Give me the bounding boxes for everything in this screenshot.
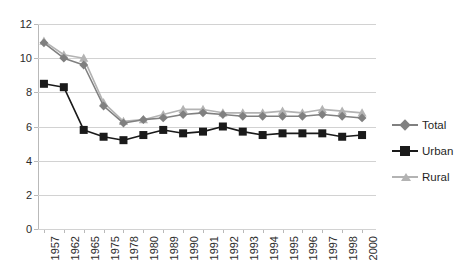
gridline	[38, 229, 376, 230]
series-total	[40, 38, 367, 127]
x-tick-label: 1978	[128, 236, 140, 260]
x-tick-label: 1991	[208, 236, 220, 260]
chart-legend: Total Urban Rural	[392, 112, 468, 190]
x-tick-label: 1957	[49, 236, 61, 260]
x-tick-label: 1998	[347, 236, 359, 260]
data-point-marker	[358, 131, 366, 139]
data-point-marker	[119, 136, 127, 144]
legend-label-urban: Urban	[422, 145, 453, 157]
x-tick-label: 1992	[228, 236, 240, 260]
line-chart: 024681012 195719621965197519781980198919…	[0, 0, 468, 280]
legend-label-total: Total	[422, 119, 446, 131]
triangle-icon	[401, 173, 411, 181]
y-tick-label: 2	[26, 189, 32, 201]
y-axis-labels: 024681012	[0, 24, 32, 229]
data-point-marker	[239, 128, 247, 136]
data-point-marker	[279, 129, 287, 137]
legend-marker-total-icon	[392, 118, 418, 132]
data-point-marker	[60, 83, 68, 91]
x-tick-label: 1975	[109, 236, 121, 260]
series-layer	[38, 24, 376, 229]
data-point-marker	[259, 131, 267, 139]
y-tick-label: 10	[20, 52, 32, 64]
y-tick-label: 0	[26, 223, 32, 235]
data-point-marker	[100, 133, 108, 141]
data-point-marker	[338, 133, 346, 141]
data-point-marker	[298, 129, 306, 137]
legend-item-rural[interactable]: Rural	[392, 164, 468, 190]
x-axis-labels: 1957196219651975197819801989199019911992…	[38, 236, 376, 280]
legend-marker-urban-icon	[392, 144, 418, 158]
data-point-marker	[159, 126, 167, 134]
y-tick-label: 6	[26, 121, 32, 133]
y-tick-label: 8	[26, 86, 32, 98]
legend-item-urban[interactable]: Urban	[392, 138, 468, 164]
x-tick-label: 1994	[268, 236, 280, 260]
x-tick-label: 1989	[168, 236, 180, 260]
x-tick-label: 1993	[248, 236, 260, 260]
legend-item-total[interactable]: Total	[392, 112, 468, 138]
data-point-marker	[219, 123, 227, 131]
data-point-marker	[179, 129, 187, 137]
data-point-marker	[139, 131, 147, 139]
x-tick-label: 1965	[89, 236, 101, 260]
x-tick-label: 1997	[327, 236, 339, 260]
x-tick-label: 1995	[288, 236, 300, 260]
data-point-marker	[40, 80, 48, 88]
x-tick-label: 1996	[307, 236, 319, 260]
x-tick-label: 2000	[367, 236, 379, 260]
plot-area	[38, 24, 376, 229]
data-point-marker	[79, 61, 88, 70]
data-point-marker	[218, 110, 227, 119]
legend-label-rural: Rural	[422, 171, 449, 183]
y-tick-label: 12	[20, 18, 32, 30]
data-point-marker	[199, 128, 207, 136]
x-tick-label: 1990	[188, 236, 200, 260]
data-point-marker	[80, 126, 88, 134]
y-tick-label: 4	[26, 155, 32, 167]
x-tick-label: 1962	[69, 236, 81, 260]
x-tick-label: 1980	[148, 236, 160, 260]
legend-marker-rural-icon	[392, 170, 418, 184]
data-point-marker	[318, 129, 326, 137]
